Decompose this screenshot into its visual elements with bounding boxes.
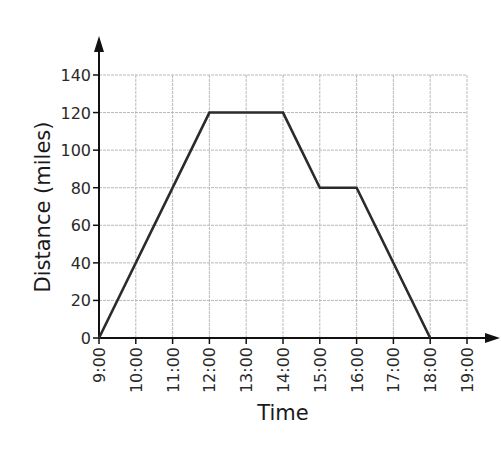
y-tick-labels: 020406080100120140 (60, 66, 99, 348)
x-axis-title: Time (256, 401, 308, 425)
x-tick-label: 15:00 (311, 347, 330, 393)
x-tick-label: 16:00 (348, 347, 367, 393)
y-tick-label: 100 (60, 141, 91, 160)
x-tick-label: 10:00 (127, 347, 146, 393)
y-tick-label: 120 (60, 104, 91, 123)
y-axis-title: Distance (miles) (31, 122, 55, 293)
x-tick-label: 14:00 (274, 347, 293, 393)
y-tick-label: 140 (60, 66, 91, 85)
x-tick-label: 19:00 (458, 347, 477, 393)
x-tick-label: 18:00 (421, 347, 440, 393)
x-tick-label: 17:00 (384, 347, 403, 393)
y-tick-label: 40 (71, 254, 91, 273)
y-tick-label: 60 (71, 216, 91, 235)
x-tick-label: 13:00 (237, 347, 256, 393)
x-axis-arrow-icon (485, 333, 500, 343)
x-tick-label: 12:00 (200, 347, 219, 393)
distance-time-chart: 020406080100120140 9:0010:0011:0012:0013… (0, 0, 501, 455)
y-tick-label: 0 (81, 329, 91, 348)
y-tick-label: 80 (71, 179, 91, 198)
x-tick-label: 9:00 (90, 347, 109, 383)
x-tick-label: 11:00 (164, 347, 183, 393)
y-axis-arrow-icon (94, 36, 104, 52)
y-tick-label: 20 (71, 291, 91, 310)
x-tick-labels: 9:0010:0011:0012:0013:0014:0015:0016:001… (90, 338, 477, 393)
axes (94, 36, 500, 343)
